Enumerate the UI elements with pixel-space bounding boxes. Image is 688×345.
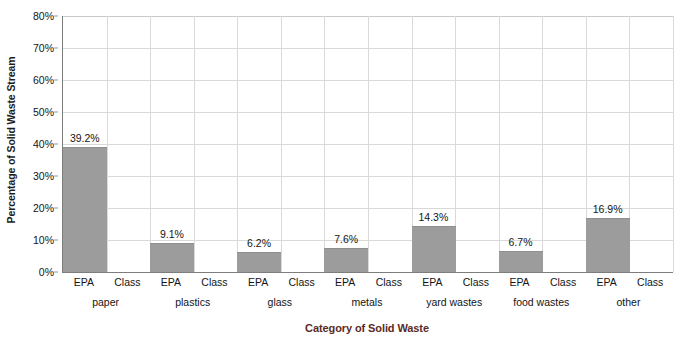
y-axis-tick-mark — [54, 80, 58, 81]
y-axis-tick-label: 70% — [33, 42, 54, 54]
x-axis-slot-label: Class — [463, 276, 489, 288]
bar-chart: Percentage of Solid Waste Stream 0%10%20… — [0, 0, 688, 345]
y-axis-tick-mark — [54, 144, 58, 145]
bar-value-label: 7.6% — [334, 233, 358, 245]
y-axis-title-text: Percentage of Solid Waste Stream — [5, 57, 17, 224]
bar — [586, 218, 630, 272]
gridline-vertical — [107, 16, 108, 272]
x-axis-category-label: food wastes — [513, 296, 569, 308]
bar — [63, 147, 107, 272]
x-axis-category-label: other — [616, 296, 640, 308]
y-axis-tick-mark — [54, 240, 58, 241]
bar-value-label: 6.2% — [247, 237, 271, 249]
x-axis-slot-label: EPA — [161, 276, 181, 288]
bar — [324, 248, 368, 272]
y-axis-tick-label: 10% — [33, 234, 54, 246]
y-axis-tick-label: 50% — [33, 106, 54, 118]
x-axis-slot-label: Class — [201, 276, 227, 288]
x-axis-slot-label: EPA — [248, 276, 268, 288]
x-axis-slot-label: Class — [289, 276, 315, 288]
x-axis-slot-label: EPA — [509, 276, 529, 288]
gridline-vertical — [150, 16, 151, 272]
bar-value-label: 9.1% — [160, 228, 184, 240]
gridline-vertical — [194, 16, 195, 272]
bar-value-label: 6.7% — [509, 236, 533, 248]
gridline-vertical — [281, 16, 282, 272]
bar-value-label: 39.2% — [70, 132, 100, 144]
bar-value-label: 16.9% — [593, 203, 623, 215]
y-axis-tick-labels: 0%10%20%30%40%50%60%70%80% — [20, 16, 58, 272]
bar-value-label: 14.3% — [418, 211, 448, 223]
x-axis-slot-label: EPA — [597, 276, 617, 288]
x-axis-title: Category of Solid Waste — [62, 322, 672, 334]
y-axis-tick-mark — [54, 112, 58, 113]
x-axis-slot-label: EPA — [422, 276, 442, 288]
gridline-vertical — [499, 16, 500, 272]
x-axis-slot-label: Class — [550, 276, 576, 288]
y-axis-title: Percentage of Solid Waste Stream — [0, 0, 22, 280]
y-axis-tick-label: 0% — [39, 266, 54, 278]
x-axis-group-labels: paperplasticsglassmetalsyard wastesfood … — [62, 296, 672, 312]
y-axis-tick-label: 20% — [33, 202, 54, 214]
x-axis-slot-label: Class — [637, 276, 663, 288]
x-axis-category-label: yard wastes — [426, 296, 482, 308]
y-axis-tick-label: 40% — [33, 138, 54, 150]
bar — [237, 252, 281, 272]
y-axis-tick-label: 60% — [33, 74, 54, 86]
gridline-vertical — [542, 16, 543, 272]
x-axis-slot-label: Class — [114, 276, 140, 288]
gridline-vertical — [368, 16, 369, 272]
x-axis-slot-label: EPA — [74, 276, 94, 288]
x-axis-category-label: paper — [92, 296, 119, 308]
gridline-vertical — [237, 16, 238, 272]
x-axis-slot-labels: EPAClassEPAClassEPAClassEPAClassEPAClass… — [62, 276, 672, 292]
bar — [150, 243, 194, 272]
x-axis-category-label: metals — [352, 296, 383, 308]
gridline-vertical — [673, 16, 674, 272]
y-axis-tick-mark — [54, 208, 58, 209]
y-axis-tick-mark — [54, 16, 58, 17]
y-axis-tick-mark — [54, 48, 58, 49]
y-axis-tick-label: 80% — [33, 10, 54, 22]
x-axis-category-label: glass — [268, 296, 293, 308]
bar — [412, 226, 456, 272]
bar — [499, 251, 543, 272]
y-axis-tick-mark — [54, 272, 58, 273]
x-axis-slot-label: Class — [376, 276, 402, 288]
plot-area: 39.2%9.1%6.2%7.6%14.3%6.7%16.9% — [62, 16, 673, 273]
gridline-vertical — [324, 16, 325, 272]
y-axis-tick-mark — [54, 176, 58, 177]
x-axis-category-label: plastics — [175, 296, 210, 308]
x-axis-slot-label: EPA — [335, 276, 355, 288]
y-axis-tick-label: 30% — [33, 170, 54, 182]
